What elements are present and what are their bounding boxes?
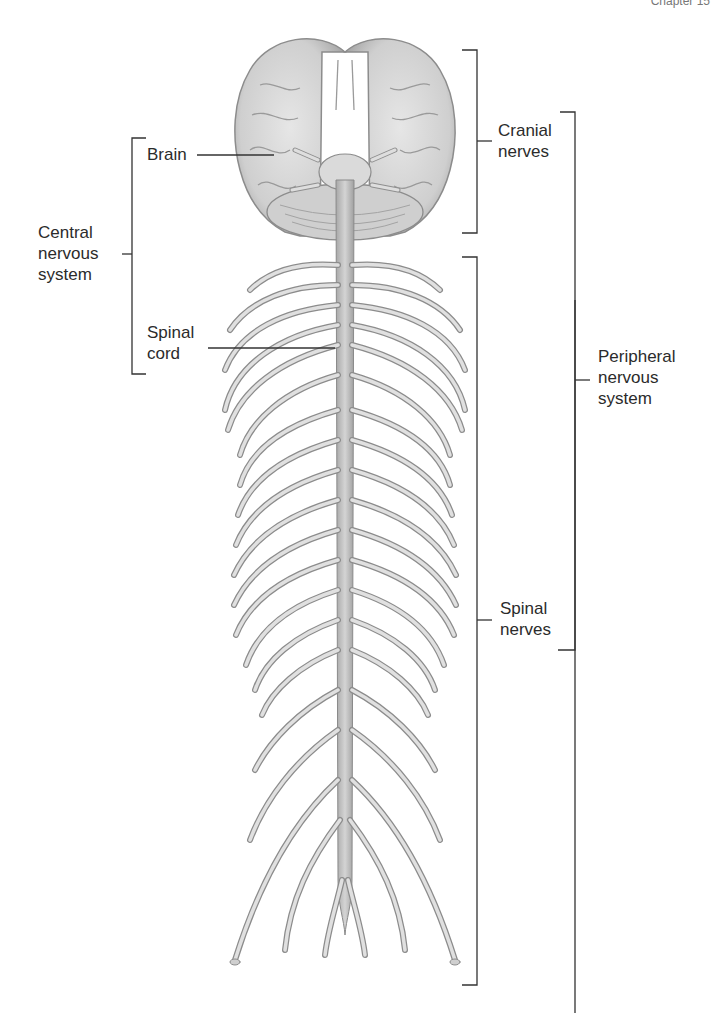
nervous-system-illustration xyxy=(0,0,728,1013)
peripheral-nervous-system-label: Peripheral nervous system xyxy=(598,346,676,409)
cns-line-3: system xyxy=(38,264,98,285)
pns-line-1: Peripheral xyxy=(598,346,676,367)
spinal-cord-label: Spinal cord xyxy=(147,322,194,364)
pns-line-3: system xyxy=(598,388,676,409)
cns-line-2: nervous xyxy=(38,243,98,264)
spinal-cord-line-1: Spinal xyxy=(147,322,194,343)
spinal-nerves-line-2: nerves xyxy=(500,619,551,640)
cranial-nerves-label: Cranial nerves xyxy=(498,120,552,162)
pns-line-2: nervous xyxy=(598,367,676,388)
cranial-line-1: Cranial xyxy=(498,120,552,141)
spinal-cord-line-2: cord xyxy=(147,343,194,364)
brain-label: Brain xyxy=(147,144,187,165)
cns-line-1: Central xyxy=(38,222,98,243)
spinal-nerves-line-1: Spinal xyxy=(500,598,551,619)
spinal-nerves-label: Spinal nerves xyxy=(500,598,551,640)
central-nervous-system-label: Central nervous system xyxy=(38,222,98,285)
cranial-line-2: nerves xyxy=(498,141,552,162)
